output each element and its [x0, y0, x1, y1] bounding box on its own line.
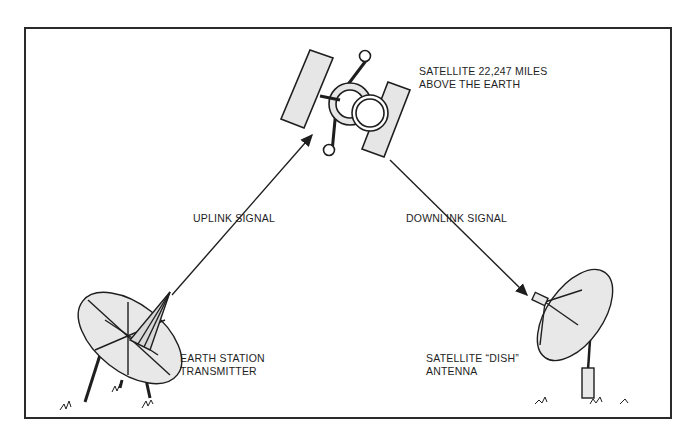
dish-antenna-label-line1: SATELLITE “DISH”	[426, 352, 519, 365]
satellite-label-line1: SATELLITE 22,247 MILES	[419, 65, 548, 78]
earth-station-transmitter-icon	[60, 274, 198, 410]
dish-antenna-label: SATELLITE “DISH” ANTENNA	[426, 352, 519, 378]
earth-station-label-line1: EARTH STATION	[180, 352, 265, 365]
downlink-signal-label: DOWNLINK SIGNAL	[406, 212, 507, 225]
earth-station-label-line2: TRANSMITTER	[180, 365, 265, 378]
earth-station-label: EARTH STATION TRANSMITTER	[180, 352, 265, 378]
satellite-icon	[281, 50, 410, 157]
diagram-artwork	[0, 0, 694, 431]
downlink-arrow	[390, 160, 527, 295]
uplink-signal-label: UPLINK SIGNAL	[193, 212, 275, 225]
satellite-label: SATELLITE 22,247 MILES ABOVE THE EARTH	[419, 65, 548, 91]
dish-antenna-label-line2: ANTENNA	[426, 365, 519, 378]
satellite-label-line2: ABOVE THE EARTH	[419, 78, 548, 91]
satellite-dish-antenna-icon	[522, 256, 628, 404]
